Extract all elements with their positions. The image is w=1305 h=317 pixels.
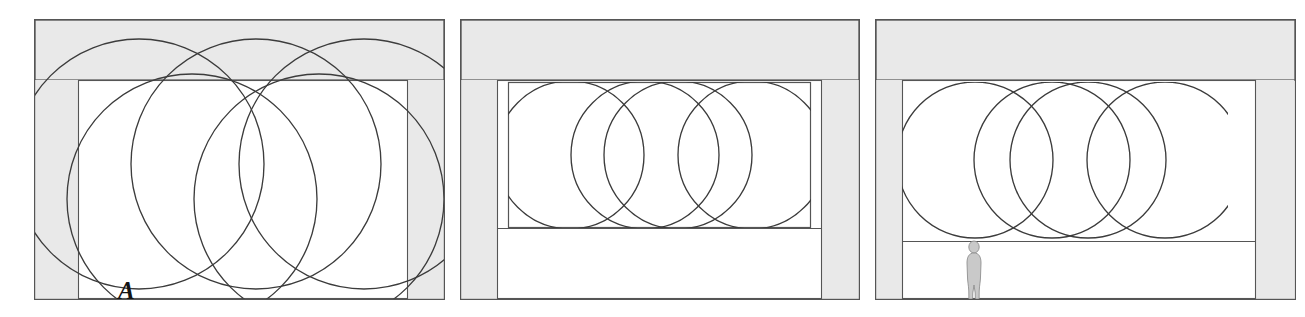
panel-b-inner-frame (498, 81, 822, 299)
panel-b-vault-box (509, 83, 811, 228)
panel-b-beam (461, 20, 859, 80)
panel-b-pier-right (822, 80, 859, 299)
panel-c-inner-frame (903, 81, 1256, 299)
panel-a-label: A (118, 278, 135, 303)
panel-c: C (875, 19, 1296, 300)
panel-c-circle-geometry (897, 82, 1243, 238)
panel-b: B (460, 19, 860, 300)
panel-b-drawing (460, 19, 860, 300)
panel-a-pier-left (35, 80, 78, 299)
panel-a: A (34, 19, 445, 300)
panel-c-pier-right (1256, 80, 1294, 299)
figure-canvas: A B (0, 0, 1305, 317)
scale-figure-icon (967, 241, 981, 300)
geometry-circle (974, 82, 1130, 238)
geometry-circle (897, 82, 1053, 238)
panel-b-pier-left (461, 80, 497, 299)
panel-c-pier-left (876, 80, 902, 299)
panel-a-beam (35, 20, 444, 80)
panel-c-drawing (875, 19, 1296, 300)
geometry-circle (1010, 82, 1166, 238)
geometry-circle (67, 74, 317, 300)
panel-a-pier-right (408, 80, 444, 299)
panel-b-circle-geometry (496, 81, 826, 229)
panel-c-beam (876, 20, 1295, 80)
geometry-circle (571, 81, 719, 229)
panel-a-drawing (34, 19, 445, 300)
geometry-circle (496, 81, 644, 229)
geometry-circle (1087, 82, 1243, 238)
panel-a-inner-frame (79, 81, 408, 299)
geometry-circle (194, 74, 444, 300)
